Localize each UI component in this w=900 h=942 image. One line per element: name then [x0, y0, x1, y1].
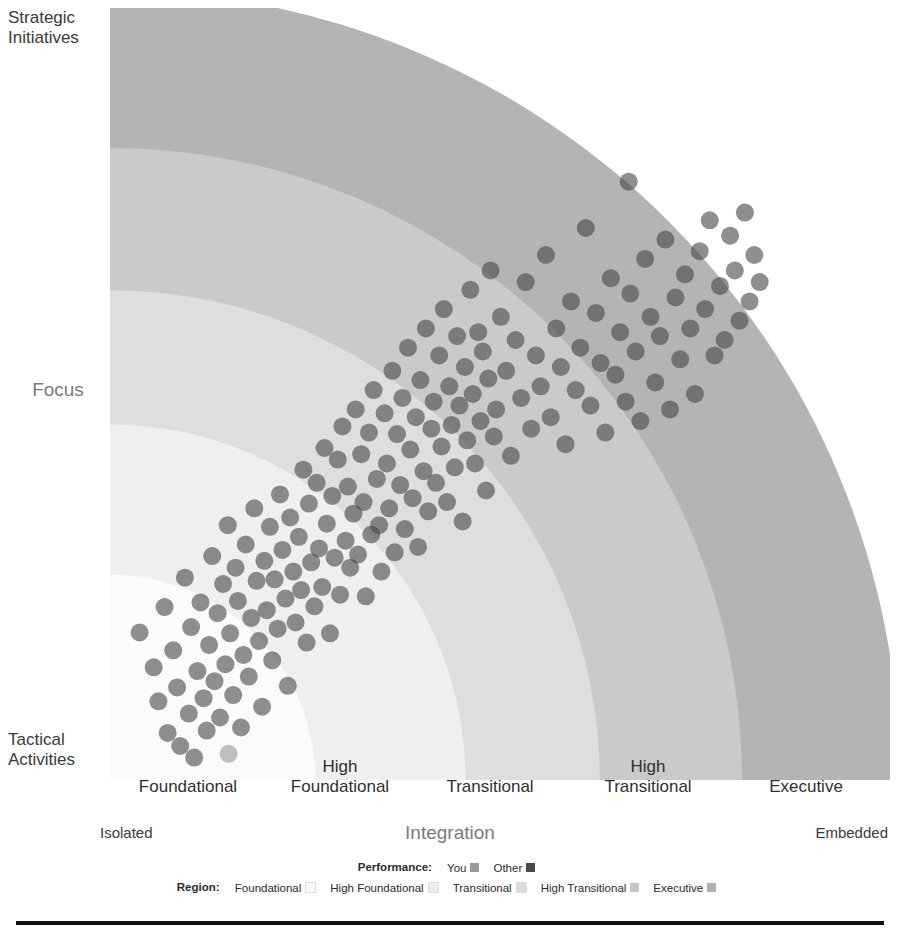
scatter-point: [182, 618, 200, 636]
scatter-point: [164, 641, 182, 659]
scatter-point: [378, 455, 396, 473]
scatter-point: [310, 539, 328, 557]
region-label-3: Transitional: [405, 777, 575, 797]
scatter-point: [331, 586, 349, 604]
legend-region-item[interactable]: Foundational: [235, 881, 317, 894]
scatter-point: [440, 377, 458, 395]
scatter-point: [696, 300, 714, 318]
legend-region-label: High Transitional: [541, 882, 627, 894]
scatter-point: [237, 536, 255, 554]
scatter-point: [263, 651, 281, 669]
scatter-point: [741, 292, 759, 310]
scatter-point: [198, 722, 216, 740]
scatter-point: [474, 343, 492, 361]
scatter-point: [321, 624, 339, 642]
region-label-2: High Foundational: [255, 757, 425, 797]
scatter-point: [466, 455, 484, 473]
scatter-point: [656, 231, 674, 249]
scatter-point: [168, 678, 186, 696]
scatter-point: [232, 719, 250, 737]
scatter-point: [527, 346, 545, 364]
scatter-point: [512, 389, 530, 407]
scatter-point: [294, 461, 312, 479]
scatter-point: [399, 339, 417, 357]
legend-region-swatch-icon: [428, 882, 439, 893]
legend-region-item[interactable]: Executive: [653, 881, 716, 894]
scatter-point: [266, 570, 284, 588]
scatter-point: [443, 416, 461, 434]
scatter-point: [255, 552, 273, 570]
scatter-point: [209, 604, 227, 622]
scatter-point: [409, 538, 427, 556]
scatter-point: [751, 273, 769, 291]
scatter-point: [323, 487, 341, 505]
scatter-point: [411, 371, 429, 389]
scatter-point: [376, 404, 394, 422]
y-axis-title: Focus: [8, 380, 108, 400]
y-axis-top-anchor-label: Strategic Initiatives: [8, 8, 104, 48]
scatter-point: [676, 265, 694, 283]
x-axis-title: Integration: [0, 822, 900, 844]
scatter-point: [611, 323, 629, 341]
scatter-point: [472, 412, 490, 430]
scatter-point: [532, 377, 550, 395]
scatter-point: [458, 431, 476, 449]
scatter-point: [492, 308, 510, 326]
scatter-point: [582, 397, 600, 415]
scatter-point: [522, 420, 540, 438]
scatter-point: [448, 327, 466, 345]
scatter-point: [159, 724, 177, 742]
y-axis-bottom-anchor-label: Tactical Activities: [8, 730, 104, 770]
scatter-point: [333, 417, 351, 435]
scatter-point: [234, 646, 252, 664]
legend-performance-item[interactable]: Other: [493, 861, 535, 874]
scatter-point: [497, 362, 515, 380]
scatter-point: [337, 532, 355, 550]
scatter-point: [646, 373, 664, 391]
scatter-point: [419, 502, 437, 520]
legend-region-swatch-icon: [305, 882, 316, 893]
scatter-point: [542, 408, 560, 426]
scatter-point: [287, 614, 305, 632]
scatter-point: [485, 428, 503, 446]
scatter-point: [606, 366, 624, 384]
scatter-point: [667, 289, 685, 307]
scatter-point: [435, 300, 453, 318]
legend-region-item[interactable]: High Foundational: [330, 881, 438, 894]
scatter-point: [224, 686, 242, 704]
legend-region-label: Foundational: [235, 882, 302, 894]
scatter-point: [229, 592, 247, 610]
scatter-point: [281, 509, 299, 527]
legend-region-label: Transitional: [453, 882, 512, 894]
scatter-point: [253, 698, 271, 716]
scatter-point: [258, 601, 276, 619]
scatter-point: [517, 273, 535, 291]
region-label-4: High Transitional: [563, 757, 733, 797]
scatter-point: [602, 269, 620, 287]
scatter-point: [681, 319, 699, 337]
scatter-point: [308, 474, 326, 492]
scatter-point: [211, 709, 229, 727]
scatter-point: [145, 658, 163, 676]
legend-performance-item[interactable]: You: [447, 861, 479, 874]
legend-region-item[interactable]: Transitional: [453, 881, 527, 894]
scatter-point: [284, 563, 302, 581]
legend-performance-label: You: [447, 862, 466, 874]
scatter-point: [620, 173, 638, 191]
scatter-point: [651, 327, 669, 345]
legend-region-item[interactable]: High Transitional: [541, 881, 640, 894]
scatter-point: [298, 634, 316, 652]
scatter-point: [404, 489, 422, 507]
scatter-point: [248, 572, 266, 590]
scatter-point: [357, 587, 375, 605]
scatter-point: [245, 499, 263, 517]
scatter-point: [446, 458, 464, 476]
legend-performance-label: Other: [493, 862, 522, 874]
legend-performance-swatch-icon: [526, 863, 535, 872]
region-label-5: Executive: [721, 777, 891, 797]
scatter-point: [621, 285, 639, 303]
legend-region-title: Region:: [177, 881, 220, 893]
scatter-point: [372, 563, 390, 581]
scatter-point: [206, 672, 224, 690]
scatter-point: [383, 362, 401, 380]
